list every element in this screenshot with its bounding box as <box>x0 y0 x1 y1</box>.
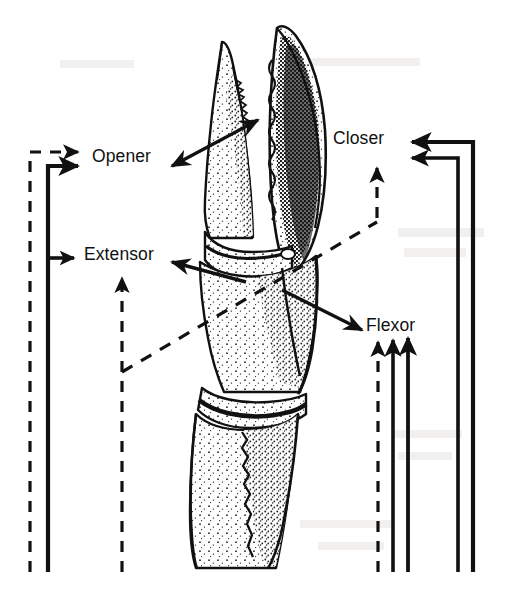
solid-left-path <box>48 166 78 572</box>
solid-closer-outer-path <box>412 142 473 572</box>
dashed-outer-left-path <box>30 152 78 572</box>
left-pathways <box>30 152 122 572</box>
label-extensor: Extensor <box>84 246 154 264</box>
label-opener: Opener <box>92 148 151 166</box>
merus-segment <box>190 414 298 568</box>
propus-body <box>200 256 318 394</box>
right-pathways <box>377 142 473 572</box>
figure-canvas <box>0 0 506 600</box>
claw-illustration <box>190 26 326 568</box>
solid-closer-inner-path <box>412 158 458 572</box>
claw-innervation-figure: Opener Extensor Closer Flexor <box>0 0 506 600</box>
label-closer: Closer <box>333 130 384 148</box>
dactyl-movable-finger <box>205 42 253 238</box>
label-flexor: Flexor <box>366 317 415 335</box>
